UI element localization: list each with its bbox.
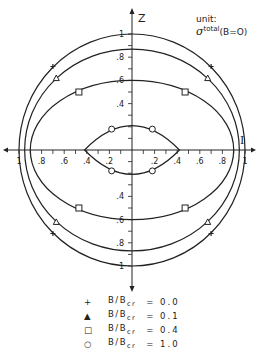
x-tick-label: .6 [60, 157, 68, 166]
z-tick-label: .4 [116, 100, 124, 109]
x-arrow-left-icon [3, 148, 8, 153]
triangle-marker-icon: ▲ [84, 309, 108, 323]
x-arrow-right-icon [251, 148, 256, 153]
plus-marker-icon: + [84, 295, 108, 309]
x-tick-label: .4 [173, 157, 181, 166]
x-tick-label: .2 [106, 157, 114, 166]
square-marker-icon [182, 205, 188, 211]
z-arrow-down-icon [130, 286, 135, 292]
circle-marker-icon [109, 126, 115, 132]
x-tick-label: .8 [219, 157, 227, 166]
z-arrow-icon [130, 8, 135, 14]
z-tick-label: 1 [119, 262, 124, 271]
unit-annotation: unit: σtotal(B=O) [196, 14, 247, 37]
x-tick-label: .4 [83, 157, 91, 166]
circle-marker-icon [109, 168, 115, 174]
square-marker-icon [182, 89, 188, 95]
z-tick-label: .8 [116, 239, 124, 248]
z-tick-label: .6 [116, 216, 124, 225]
unit-label: unit: [196, 14, 247, 24]
x-tick-label: .8 [38, 157, 46, 166]
circle-marker-icon [149, 126, 155, 132]
x-tick-label: .6 [196, 157, 204, 166]
circle-marker-icon [149, 168, 155, 174]
x-tick-label: .2 [151, 157, 159, 166]
z-axis-label: Z [138, 12, 146, 25]
square-marker-icon [76, 205, 82, 211]
legend-item: ○B/Bcr= 1.0 [84, 337, 180, 351]
square-marker-icon [76, 89, 82, 95]
z-tick-label: .4 [116, 192, 124, 201]
unit-expression: σtotal(B=O) [196, 24, 247, 37]
square-marker-icon: □ [84, 323, 108, 337]
z-tick-label: .8 [116, 53, 124, 62]
circle-marker-icon: ○ [84, 337, 108, 351]
legend: +B/Bcr= 0.0 ▲B/Bcr= 0.1 □B/Bcr= 0.4 ○B/B… [84, 295, 180, 351]
